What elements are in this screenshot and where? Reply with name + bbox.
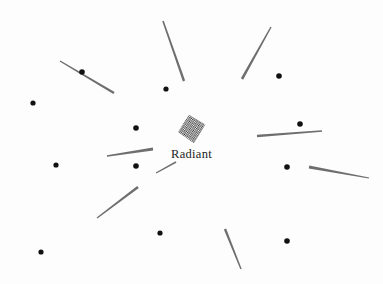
dot-on-upper-ray <box>79 69 85 75</box>
dot-right-of-mark <box>297 121 303 127</box>
brand-wordmark: Radiant <box>171 148 212 161</box>
ray-lower-right <box>224 229 242 270</box>
ray-upper-right <box>241 27 272 80</box>
dot-below-left-ray <box>133 163 139 169</box>
dot-lower-left <box>38 249 43 254</box>
ray-right-upper <box>257 130 322 137</box>
ray-upper-left <box>60 60 115 94</box>
ray-left-short <box>156 161 177 173</box>
dot-right-lower <box>284 238 290 244</box>
ray-top-center <box>162 21 185 82</box>
ray-left-inner <box>107 148 153 157</box>
radiant-logo-canvas: Radiant <box>0 0 383 284</box>
dots-group <box>30 69 302 254</box>
rays-group <box>60 21 369 270</box>
dot-right-mid <box>284 164 290 170</box>
ray-right-lower <box>309 166 369 179</box>
ray-lower-left <box>97 186 139 219</box>
dot-upper-left-far <box>30 100 35 105</box>
dot-center-left <box>133 125 139 131</box>
dot-left-mid <box>53 162 58 167</box>
dot-upper-right <box>276 73 282 79</box>
dot-bottom-center <box>157 230 162 235</box>
brand-lockup: Radiant <box>171 112 212 161</box>
dot-top-center <box>163 86 168 91</box>
halftone-diamond-logo-icon <box>174 112 208 146</box>
